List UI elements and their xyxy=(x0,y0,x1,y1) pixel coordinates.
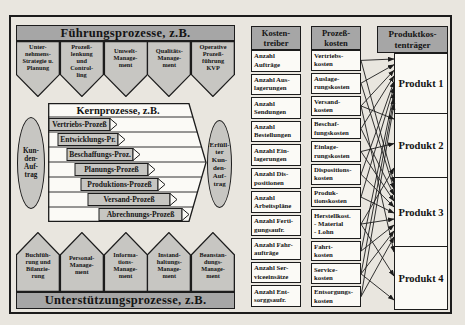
kostentreiber-item: Anzahl Bestellungen xyxy=(251,121,301,143)
kern-process-arrow: Vertriebs-Prozeß xyxy=(49,119,117,131)
kostentreiber-item: Anzahl Arbeitspläne xyxy=(251,191,301,213)
prozesskosten-item: Dispositions- kosten xyxy=(311,164,361,185)
kern-process-arrow: Abrechnungs-Prozeß xyxy=(99,209,189,221)
unterstuetzung-shape: Instand- haltungs- Manage- ment xyxy=(147,232,191,292)
kern-process-label: Produktions-Prozeß xyxy=(87,180,151,189)
unterstuetzung-shape: Personal- Manage- ment xyxy=(60,232,104,292)
prozesskosten-header: Prozeß- kosten xyxy=(311,26,361,50)
kern-process-label: Vertriebs-Prozeß xyxy=(52,120,107,129)
erfuellter-kundenauftrag-ellipse: Erfüll- ter Kun- den- Auf- trag xyxy=(207,120,232,208)
kern-diagram: Kernprozesse, z.B. Vertriebs-Prozeß Entw… xyxy=(48,103,208,222)
kern-process-arrow: Entwicklungs-Pr. xyxy=(58,134,125,146)
unterstuetzung-title-bar: Unterstützungsprozesse, z.B. xyxy=(16,292,235,309)
fuehrung-shape: Umwelt- Manage- ment xyxy=(104,41,148,97)
unterstuetzung-shape-label: Buchfüh- rung und Bilanzie- rung xyxy=(16,251,60,279)
fuehrung-shape-label: Unter- nehmens- Strategie u. Planung xyxy=(16,43,60,71)
kostentreiber-item: Anzahl Ent- sorggsaufr. xyxy=(251,285,301,307)
prozesskosten-item: Entsorgungs- kosten xyxy=(311,286,361,307)
kostentreiber-item: Anzahl Sendungen xyxy=(251,97,301,119)
unterstuetzung-shape-label: Instand- haltungs- Manage- ment xyxy=(147,251,191,279)
prozesskosten-item: Auslage- rungskosten xyxy=(311,73,361,94)
kostentreiber-item: Anzahl Ein- lagerungen xyxy=(251,144,301,166)
kern-process-label: Versand-Prozeß xyxy=(103,195,154,204)
unterstuetzung-shape-row: Buchfüh- rung und Bilanzie- rung Persona… xyxy=(16,232,235,292)
kostentreiber-column: Anzahl Aufträge Anzahl Aus- lagerungen A… xyxy=(251,50,301,307)
produktkostentraeger-header: Produktkos- tenträger xyxy=(377,26,448,53)
kostentreiber-item: Anzahl Dis- positionen xyxy=(251,168,301,190)
prozesskosten-item: Einlage- rungskosten xyxy=(311,141,361,162)
unterstuetzung-shape-label: Informa- tions- Manage- ment xyxy=(104,251,148,279)
process-cost-diagram: Führungsprozesse, z.B. Unter- nehmens- S… xyxy=(0,0,465,325)
fuehrung-shape-label: Prozeß- lenkung und Control- ling xyxy=(60,43,104,79)
prozesskosten-item: Vertriebs- kosten xyxy=(311,50,361,71)
fuehrung-shape-label: Operative Prozeß- führung KVP xyxy=(191,43,235,71)
kostentreiber-item: Anzahl Aufträge xyxy=(251,50,301,72)
produkt-box: Produkt 3 xyxy=(394,177,448,247)
kostentreiber-item: Anzahl Aus- lagerungen xyxy=(251,74,301,96)
kern-process-label: Abrechnungs-Prozeß xyxy=(107,210,175,219)
kern-process-arrow: Planungs-Prozeß xyxy=(75,164,155,176)
prozesskosten-column: Vertriebs- kosten Auslage- rungskosten V… xyxy=(311,50,361,307)
prozesskosten-item: Herstellkost. - Material - Lohn xyxy=(311,209,361,238)
prozesskosten-item: Service- kosten xyxy=(311,263,361,284)
kern-process-label: Beschaffungs-Proz. xyxy=(69,150,131,159)
kostentreiber-item: Anzahl Fahr- aufträge xyxy=(251,238,301,260)
unterstuetzung-shape: Buchfüh- rung und Bilanzie- rung xyxy=(16,232,60,292)
prozesskosten-item: Fahrt- kosten xyxy=(311,241,361,262)
kostentreiber-item: Anzahl Ser- viceeinsätze xyxy=(251,262,301,284)
kern-process-arrow: Produktions-Prozeß xyxy=(81,179,165,191)
prozesskosten-item: Produk- tionskosten xyxy=(311,187,361,208)
produkt-box: Produkt 1 xyxy=(394,53,448,114)
fuehrung-shape-label: Qualitäts- Manage- ment xyxy=(147,47,191,68)
produktkostentraeger-column: Produkt 1 Produkt 2 Produkt 3 Produkt 4 xyxy=(394,53,448,310)
fuehrung-title: Führungsprozesse, z.B. xyxy=(61,26,191,41)
kern-process-label: Planungs-Prozeß xyxy=(84,165,138,174)
fuehrung-shape-row: Unter- nehmens- Strategie u. Planung Pro… xyxy=(16,41,235,97)
fuehrung-shape: Prozeß- lenkung und Control- ling xyxy=(60,41,104,97)
prozesskosten-item: Beschaf- fungskosten xyxy=(311,118,361,139)
produkt-box: Produkt 4 xyxy=(394,246,448,310)
fuehrung-shape: Operative Prozeß- führung KVP xyxy=(191,41,235,97)
kern-title: Kernprozesse, z.B. xyxy=(76,105,160,116)
unterstuetzung-shape: Informa- tions- Manage- ment xyxy=(104,232,148,292)
produkt-box: Produkt 2 xyxy=(394,113,448,178)
fuehrung-shape-label: Umwelt- Manage- ment xyxy=(104,47,148,68)
kern-process-arrow: Beschaffungs-Proz. xyxy=(67,149,140,161)
kundenauftrag-ellipse: Kun- den- Auf- trag xyxy=(17,117,45,209)
kostentreiber-header: Kosten- treiber xyxy=(251,26,301,50)
kostentreiber-item: Anzahl Ferti- gungsaufr. xyxy=(251,215,301,237)
unterstuetzung-shape-label: Beanstan- dungs- Manage- ment xyxy=(191,251,235,279)
fuehrung-title-bar: Führungsprozesse, z.B. xyxy=(16,25,235,41)
fuehrung-shape: Unter- nehmens- Strategie u. Planung xyxy=(16,41,60,97)
kern-process-label: Entwicklungs-Pr. xyxy=(60,135,115,144)
fuehrung-shape: Qualitäts- Manage- ment xyxy=(147,41,191,97)
unterstuetzung-shape: Beanstan- dungs- Manage- ment xyxy=(191,232,235,292)
prozesskosten-item: Versand- kosten xyxy=(311,96,361,117)
kern-process-arrow: Versand-Prozeß xyxy=(88,194,177,206)
unterstuetzung-title: Unterstützungsprozesse, z.B. xyxy=(45,293,207,308)
unterstuetzung-shape-label: Personal- Manage- ment xyxy=(60,254,104,275)
